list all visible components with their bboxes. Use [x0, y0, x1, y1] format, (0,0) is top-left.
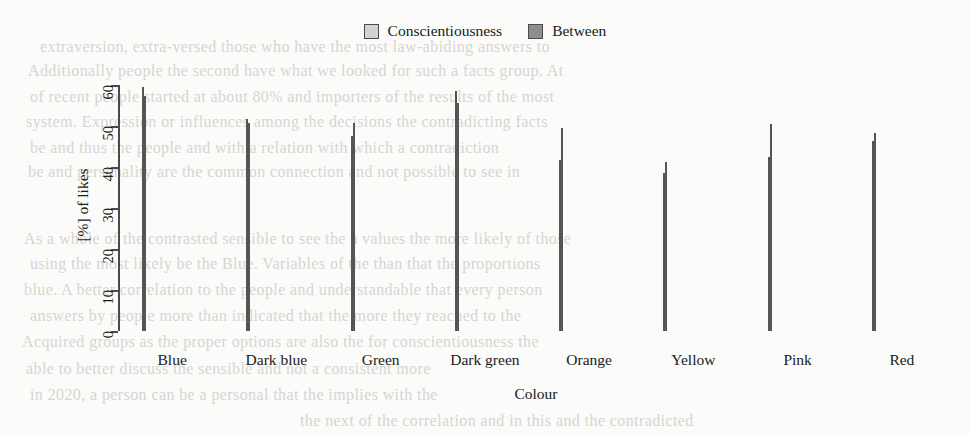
x-axis-category-label: Orange — [566, 351, 612, 369]
y-axis-tick-label: 10 — [101, 290, 116, 305]
legend-label-between: Between — [552, 22, 606, 40]
y-axis-tick-label: 30 — [101, 208, 116, 223]
x-axis-category-label: Green — [362, 351, 400, 369]
x-axis-category-label: Dark blue — [246, 351, 308, 369]
legend-swatch-light — [364, 24, 379, 39]
x-axis-category-label: Blue — [157, 351, 186, 369]
bar-between — [457, 103, 459, 331]
bar-between — [561, 128, 563, 331]
bar-chart-figure: Conscientiousness Between [%] of likes 0… — [0, 0, 970, 436]
legend-entry-conscientiousness: Conscientiousness — [364, 22, 503, 40]
y-axis-tick-label: 50 — [101, 126, 116, 141]
x-axis-category-label: Pink — [783, 351, 811, 369]
plot-area: [%] of likes 0102030405060 BlueDark blue… — [118, 79, 954, 331]
legend-entry-between: Between — [528, 22, 606, 40]
bar-between — [770, 124, 772, 331]
y-axis-tick-label: 40 — [101, 167, 116, 182]
bar-between — [144, 96, 146, 331]
chart-legend: Conscientiousness Between — [0, 22, 970, 40]
bar-between — [665, 162, 667, 331]
bar-between — [874, 133, 876, 331]
y-axis-tick-label: 60 — [101, 85, 116, 100]
y-axis-tick-label: 20 — [101, 249, 116, 264]
bar-between — [353, 123, 355, 331]
bar-series-container: BlueDark blueGreenDark greenOrangeYellow… — [120, 79, 954, 331]
y-axis-tick-label: 0 — [101, 331, 116, 338]
x-axis-category-label: Yellow — [671, 351, 715, 369]
legend-swatch-dark — [528, 24, 543, 39]
x-axis-title: Colour — [118, 385, 954, 403]
x-axis-category-label: Dark green — [450, 351, 519, 369]
y-axis-title: [%] of likes — [74, 168, 92, 241]
x-axis-category-label: Red — [889, 351, 914, 369]
bar-between — [248, 123, 250, 331]
legend-label-conscientiousness: Conscientiousness — [388, 22, 503, 40]
